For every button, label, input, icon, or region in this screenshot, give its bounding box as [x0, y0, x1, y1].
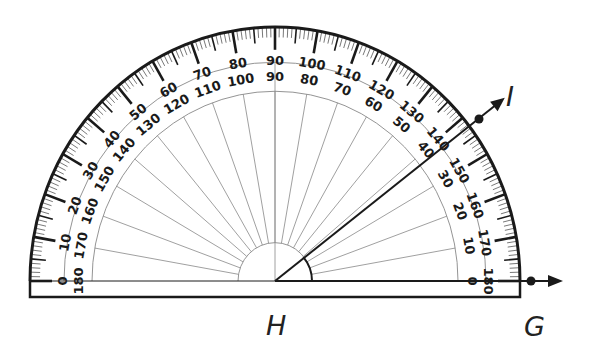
tick-mark — [175, 49, 179, 58]
tick-mark — [35, 228, 45, 230]
tick-mark — [30, 268, 40, 269]
tick-mark — [472, 143, 480, 149]
tick-mark — [387, 61, 398, 81]
tick-mark — [254, 28, 255, 43]
tick-mark — [77, 132, 85, 138]
tick-mark — [31, 259, 46, 260]
tick-mark — [291, 28, 292, 38]
tick-mark — [108, 95, 115, 103]
guide-ray — [184, 117, 257, 248]
guide-ray — [95, 248, 239, 274]
tick-mark — [39, 211, 49, 214]
inner-scale-number: 180 — [71, 267, 86, 294]
tick-mark — [438, 101, 449, 112]
tick-mark — [509, 263, 519, 264]
tick-mark — [468, 154, 487, 165]
tick-mark — [37, 220, 47, 223]
tick-mark — [320, 32, 322, 42]
tick-mark — [406, 70, 412, 79]
tick-mark — [344, 38, 347, 48]
tick-mark — [435, 95, 442, 103]
tick-mark — [463, 135, 475, 144]
tick-mark — [35, 233, 45, 235]
tick-mark — [308, 29, 309, 39]
tick-mark — [403, 68, 408, 77]
tick-mark — [363, 45, 367, 55]
tick-mark — [486, 170, 495, 175]
tick-mark — [416, 78, 422, 86]
tick-mark — [509, 254, 519, 255]
tick-mark — [498, 203, 508, 206]
tick-mark — [31, 263, 41, 264]
tick-mark — [31, 254, 41, 255]
tick-mark — [32, 246, 42, 247]
tick-mark — [447, 108, 454, 115]
tick-mark — [484, 166, 493, 171]
tick-mark — [63, 154, 82, 165]
tick-mark — [324, 33, 326, 43]
guide-ray — [135, 159, 247, 256]
guide-ray — [212, 103, 262, 245]
tick-mark — [485, 194, 506, 202]
tick-mark — [382, 55, 387, 64]
tick-mark — [300, 28, 301, 38]
tick-mark — [111, 92, 118, 100]
tick-mark — [503, 220, 513, 223]
angle-marker-arc — [303, 257, 312, 281]
tick-mark — [505, 228, 515, 230]
tick-mark — [183, 45, 187, 55]
arrowhead-i-icon — [490, 98, 505, 111]
tick-mark — [153, 61, 164, 81]
arrowhead-g-icon — [548, 275, 563, 287]
tick-mark — [203, 38, 206, 48]
tick-mark — [32, 250, 42, 251]
tick-mark — [506, 233, 516, 235]
tick-mark — [241, 29, 242, 39]
guide-ray — [294, 117, 367, 248]
tick-mark — [124, 81, 130, 89]
tick-mark — [96, 108, 103, 115]
tick-mark — [179, 47, 183, 57]
tick-mark — [351, 42, 359, 63]
protractor-diagram: 0102030405060708090100110120130140150160… — [0, 0, 589, 341]
point-g-dot — [527, 277, 536, 286]
tick-mark — [287, 27, 288, 37]
tick-mark — [59, 162, 68, 167]
tick-mark — [55, 170, 64, 175]
tick-mark — [262, 27, 263, 37]
tick-mark — [495, 237, 517, 241]
tick-mark — [474, 146, 482, 151]
tick-mark — [187, 44, 191, 54]
tick-mark — [191, 42, 199, 63]
tick-mark — [504, 224, 514, 226]
tick-mark — [328, 34, 330, 44]
tick-mark — [494, 190, 503, 194]
tick-mark — [72, 139, 80, 145]
tick-mark — [128, 78, 134, 86]
guide-ray — [243, 94, 268, 243]
tick-mark — [304, 29, 305, 39]
tick-mark — [420, 81, 426, 89]
tick-mark — [232, 31, 236, 53]
tick-mark — [432, 92, 439, 100]
inner-scale-number: 100 — [226, 70, 255, 89]
outer-scale-number: 0 — [55, 276, 70, 285]
tick-mark — [482, 162, 491, 167]
tick-mark — [51, 178, 60, 182]
tick-mark — [359, 44, 363, 54]
guide-ray — [288, 103, 338, 245]
tick-mark — [504, 259, 519, 260]
tick-mark — [508, 250, 518, 251]
tick-mark — [168, 53, 172, 62]
tick-mark — [164, 55, 169, 64]
tick-mark — [216, 35, 218, 45]
tick-mark — [38, 215, 52, 219]
tick-mark — [220, 34, 222, 44]
base-edge — [30, 281, 520, 297]
tick-mark — [131, 76, 137, 84]
tick-mark — [43, 198, 52, 201]
tick-mark — [70, 143, 78, 149]
tick-mark — [340, 37, 343, 47]
tick-mark — [508, 246, 518, 247]
tick-mark — [57, 166, 66, 171]
